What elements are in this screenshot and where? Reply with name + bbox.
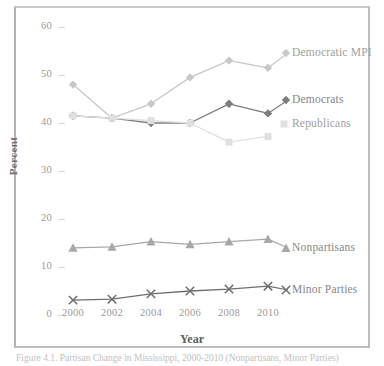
y-axis-tick-mark <box>58 123 65 124</box>
x-axis-tick-label: 2010 <box>245 307 291 318</box>
y-axis-tick-label: 10 <box>22 260 52 271</box>
series-label-democrats: Democrats <box>292 93 344 105</box>
x-axis-title: Year <box>0 332 384 347</box>
y-axis-tick-mark <box>58 267 65 268</box>
y-axis-tick-mark <box>58 171 65 172</box>
figure-caption: Figure 4.1. Partisan Change in Mississip… <box>16 352 372 364</box>
series-label-minor-parties: Minor Parties <box>292 283 358 295</box>
y-axis-tick-label: 40 <box>22 116 52 127</box>
y-axis-tick-mark <box>58 75 65 76</box>
series-label-republicans: Republicans <box>292 117 351 129</box>
y-axis-tick-label: 20 <box>22 212 52 223</box>
series-label-nonpartisans: Nonpartisans <box>292 241 355 253</box>
y-axis-tick-label: 0 <box>22 308 52 319</box>
y-axis-title: Percent <box>7 137 19 176</box>
y-axis-tick-label: 60 <box>22 20 52 31</box>
y-axis-tick-mark <box>58 219 65 220</box>
y-axis-tick-label: 30 <box>22 164 52 175</box>
series-label-democratic-mpi: Democratic MPI <box>292 46 372 58</box>
figure-container: Percent Year 0102030405060 2000200220042… <box>0 0 384 366</box>
y-axis-tick-mark <box>58 27 65 28</box>
y-axis-tick-label: 50 <box>22 68 52 79</box>
